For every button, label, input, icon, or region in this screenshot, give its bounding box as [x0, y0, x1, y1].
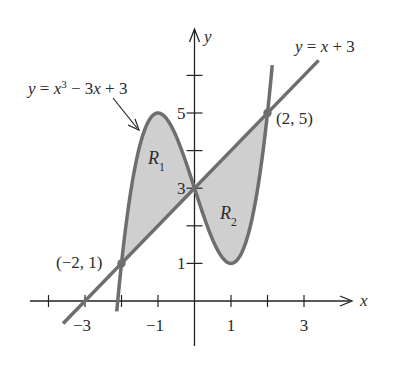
x-tick-label: 3	[300, 316, 309, 335]
y-tick-label: 1	[177, 254, 186, 273]
line-y-equals-x-plus-3	[63, 60, 319, 323]
point-right-label: (2, 5)	[276, 109, 313, 128]
area-between-curves-diagram: y = x3 − 3x + 3y = x + 3R1R2(−2, 1)(2, 5…	[0, 0, 402, 367]
callout-arrow	[113, 98, 137, 128]
y-tick-label: 5	[177, 104, 186, 123]
x-axis-label: x	[359, 291, 368, 310]
line-label: y = x + 3	[293, 37, 355, 56]
y-axis-label: y	[202, 27, 212, 46]
labels: y = x3 − 3x + 3y = x + 3R1R2(−2, 1)(2, 5…	[26, 27, 368, 335]
intersection-point-right	[263, 109, 271, 117]
x-tick-label: −1	[146, 316, 164, 335]
curve-label: y = x3 − 3x + 3	[26, 78, 127, 98]
x-tick-label: 1	[227, 316, 236, 335]
intersection-point-left	[117, 259, 125, 267]
y-tick-label: 3	[177, 179, 186, 198]
x-tick-label: −3	[73, 316, 91, 335]
point-left-label: (−2, 1)	[56, 253, 102, 272]
curves	[63, 60, 319, 323]
